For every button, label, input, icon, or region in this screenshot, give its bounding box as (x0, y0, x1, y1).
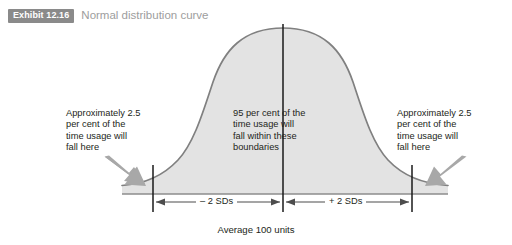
label-minus-2-sds: – 2 SDs (196, 197, 237, 206)
annotation-right-tail: Approximately 2.5 per cent of the time u… (397, 108, 471, 154)
left-tail-pointer-arrow (105, 156, 147, 187)
annotation-left-tail: Approximately 2.5 per cent of the time u… (66, 108, 140, 154)
annotation-central-region: 95 per cent of the time usage will fall … (233, 108, 305, 154)
right-tail-pointer-arrow (425, 156, 467, 187)
axis-caption-average: Average 100 units (0, 225, 512, 235)
label-plus-2-sds: + 2 SDs (325, 197, 366, 206)
